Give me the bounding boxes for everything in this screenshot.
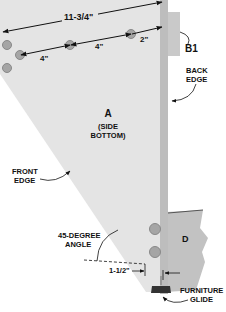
glide-label-line1: FURNITURE xyxy=(180,286,223,295)
glide-offset-label: 1-1/2" xyxy=(109,266,130,275)
front-edge-label-line2: EDGE xyxy=(14,176,35,185)
part-b1-block xyxy=(166,12,180,56)
furniture-glide-icon xyxy=(151,286,171,293)
back-edge-label-line1: BACK xyxy=(186,66,208,75)
front-edge-leader-arrow xyxy=(40,171,70,180)
glide-stem xyxy=(160,276,162,285)
glide-label-line2: GLIDE xyxy=(190,295,213,304)
angle-label-line1: 45-DEGREE xyxy=(58,231,101,240)
part-b1-label: B1 xyxy=(185,43,198,54)
part-a-name-line1: (SIDE xyxy=(98,122,118,131)
part-d-label: D xyxy=(182,234,189,244)
part-d-block xyxy=(166,210,208,292)
screw-icon xyxy=(3,41,12,50)
part-a-name-line2: BOTTOM) xyxy=(91,131,126,140)
screw-icon xyxy=(150,247,161,258)
dimension-spacing-2-label: 4" xyxy=(95,42,103,51)
screw-icon xyxy=(3,64,12,73)
back-edge-leader-arrow xyxy=(172,84,196,101)
dimension-spacing-1-label: 4" xyxy=(40,54,48,63)
angle-label-line2: ANGLE xyxy=(65,240,91,249)
part-a-back-edge xyxy=(160,0,168,294)
glide-leader-arrow xyxy=(163,297,188,302)
cabinet-side-diagram: 11-3/4" 4" 4" 2" A (SIDE BOTTOM) B1 D BA… xyxy=(0,0,226,312)
dimension-end-label: 2" xyxy=(140,35,148,44)
screw-icon xyxy=(150,224,161,235)
back-edge-label-line2: EDGE xyxy=(186,75,207,84)
part-a-letter: A xyxy=(104,108,111,119)
front-edge-label-line1: FRONT xyxy=(12,167,38,176)
dimension-overall-label: 11-3/4" xyxy=(64,12,93,22)
